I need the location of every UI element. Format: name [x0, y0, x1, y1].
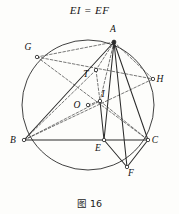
dashed-segment-tb — [24, 70, 96, 140]
point-marker-h — [151, 77, 154, 80]
geometry-figure-panel: EI = EF AGHTIOBCEF 图 16 — [0, 0, 179, 214]
point-label-b: B — [10, 135, 16, 145]
point-label-i: I — [100, 89, 105, 99]
point-marker-o — [86, 103, 89, 106]
point-label-o: O — [74, 100, 81, 110]
point-label-f: F — [127, 168, 134, 178]
solid-segment-ef — [104, 140, 127, 167]
point-marker-a — [112, 40, 116, 44]
dashed-segment-bh — [24, 79, 153, 140]
point-label-c: C — [152, 135, 159, 145]
point-marker-i — [98, 99, 101, 102]
point-marker-c — [146, 138, 149, 141]
figure-caption: 图 16 — [0, 196, 179, 210]
point-marker-t — [94, 68, 97, 71]
point-label-h: H — [156, 74, 165, 84]
solid-segment-cf — [127, 140, 148, 167]
point-label-a: A — [109, 24, 116, 34]
point-label-g: G — [25, 42, 32, 52]
point-label-t: T — [83, 69, 89, 79]
figure-canvas: AGHTIOBCEF — [0, 0, 179, 214]
point-marker-g — [35, 55, 38, 58]
dashed-segment-gc — [37, 57, 148, 140]
point-label-e: E — [94, 143, 101, 153]
dashed-segment-ah — [114, 42, 153, 79]
point-marker-b — [22, 138, 25, 141]
dashed-segment-ti — [96, 70, 100, 101]
solid-segment-ae — [104, 42, 114, 140]
point-marker-e — [102, 138, 105, 141]
